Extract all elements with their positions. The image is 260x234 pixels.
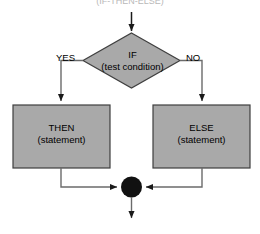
- yes-connector: [61, 61, 83, 102]
- no-connector: [180, 61, 202, 102]
- then-merge-connector: [61, 168, 117, 187]
- merge-node-shape: [121, 177, 142, 198]
- branch-label-no: NO: [186, 52, 200, 63]
- flowchart-graphics: [0, 0, 260, 234]
- decision-diamond-shape: [83, 33, 180, 88]
- else-box-shape: [153, 105, 250, 168]
- else-merge-connector: [146, 168, 202, 187]
- branch-label-yes: YES: [56, 52, 75, 63]
- then-box-shape: [13, 105, 110, 168]
- flowchart-canvas: (IF-THEN-ELSE) IF: [0, 0, 260, 234]
